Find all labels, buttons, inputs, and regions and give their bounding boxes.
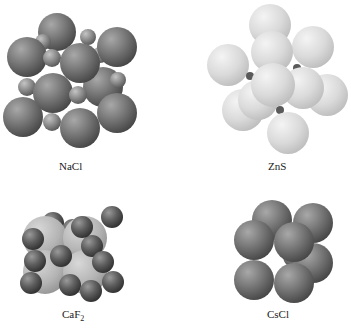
nacl-label: NaCl — [59, 160, 82, 172]
caf2-structure — [20, 206, 124, 302]
nacl-structure — [3, 13, 137, 148]
zns-label: ZnS — [268, 160, 286, 172]
caf2-label: CaF2 — [62, 308, 84, 320]
crystal-structures-figure — [0, 0, 351, 329]
cscl-label: CsCl — [267, 308, 289, 320]
zns-structure — [207, 4, 348, 154]
caf2-subscript: 2 — [80, 314, 84, 323]
cscl-structure — [234, 200, 333, 303]
